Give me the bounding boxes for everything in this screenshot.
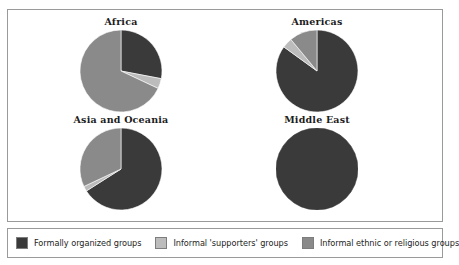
- pie-chart-middle-east: [276, 128, 358, 210]
- chart-legend: Formally organized groups Informal 'supp…: [7, 228, 443, 258]
- legend-item-formally-organized-groups: Formally organized groups: [16, 229, 141, 257]
- pie-title-middle-east: Middle East: [232, 114, 402, 127]
- legend-swatch-icon: [16, 237, 28, 249]
- pie-chart-africa: [80, 30, 162, 112]
- legend-label: Formally organized groups: [34, 238, 141, 248]
- pie-panel-asia-and-oceania: Asia and Oceania: [36, 114, 206, 214]
- legend-label: Informal ethnic or religious groups: [320, 238, 459, 248]
- legend-label: Informal 'supporters' groups: [173, 238, 287, 248]
- pie-panel-americas: Americas: [232, 16, 402, 116]
- pie-panel-africa: Africa: [36, 16, 206, 116]
- legend-item-informal-ethnic-or-religious-groups: Informal ethnic or religious groups: [302, 229, 459, 257]
- pie-title-americas: Americas: [232, 16, 402, 29]
- legend-swatch-icon: [302, 237, 314, 249]
- chart-panel: Africa Americas Asia and Oceania Middle …: [7, 9, 443, 222]
- pie-panel-middle-east: Middle East: [232, 114, 402, 214]
- pie-slice: [121, 30, 162, 79]
- pie-chart-americas: [276, 30, 358, 112]
- pie-chart-asia-and-oceania: [80, 128, 162, 210]
- legend-swatch-icon: [155, 237, 167, 249]
- pie-title-africa: Africa: [36, 16, 206, 29]
- legend-item-informal-supporters-groups: Informal 'supporters' groups: [155, 229, 287, 257]
- pie-title-asia-and-oceania: Asia and Oceania: [36, 114, 206, 127]
